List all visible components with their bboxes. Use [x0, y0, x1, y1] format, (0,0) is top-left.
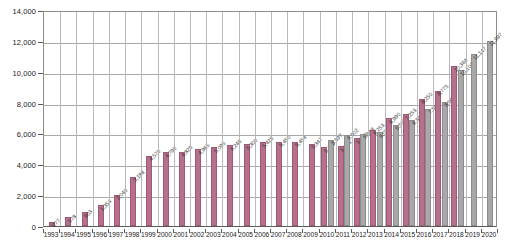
category-separator [190, 12, 191, 226]
bar-value-label: 5,300 [245, 137, 259, 151]
category-separator [60, 12, 61, 226]
bar-pink [195, 149, 201, 226]
category-separator [466, 12, 467, 226]
category-separator [222, 12, 223, 226]
bar-value-label: 5,425 [261, 135, 275, 149]
bar-value-label: 8,775 [436, 83, 450, 97]
bar-pink [338, 146, 344, 226]
bar-value-label: 2,040 [115, 187, 129, 201]
y-axis-tick-label: 14,000 [12, 7, 36, 16]
bar-pink [211, 147, 217, 226]
x-axis-tick-label: 2007 [270, 231, 286, 238]
bar-gray [409, 120, 415, 226]
bar-pink [435, 91, 441, 226]
bar-value-label: 4,790 [164, 145, 178, 159]
x-axis-tick-label: 2018 [448, 231, 464, 238]
x-axis-tick-label: 1995 [75, 231, 91, 238]
bar-pink [321, 147, 327, 226]
y-axis-tick-label: 12,000 [12, 37, 36, 46]
bar-pink [146, 156, 152, 227]
bar-pink [354, 138, 360, 226]
category-separator [109, 12, 110, 226]
bar-value-label: 5,246 [229, 138, 243, 152]
bar-gray [487, 41, 493, 226]
x-axis-tick-label: 2020 [481, 231, 497, 238]
category-separator [271, 12, 272, 226]
x-axis: 1993199419951996199719981999200020012002… [43, 229, 497, 246]
x-axis-tick-label: 2000 [157, 231, 173, 238]
x-axis-tick-label: 2005 [238, 231, 254, 238]
x-axis-tick-label: 2011 [335, 231, 351, 238]
bar-pink [370, 130, 376, 226]
x-axis-tick-label: 2009 [302, 231, 318, 238]
bar-gray [458, 70, 464, 226]
x-axis-tick-label: 2015 [400, 231, 416, 238]
bar-gray [328, 140, 334, 226]
category-separator [158, 12, 159, 226]
x-axis-tick-label: 2003 [205, 231, 221, 238]
category-separator [255, 12, 256, 226]
x-axis-tick-label: 1994 [59, 231, 75, 238]
bar-gray [442, 102, 448, 226]
bar-value-label: 5,095 [213, 140, 227, 154]
plot-area: 2775789031,3542,0403,1884,5704,7904,8254… [43, 11, 497, 227]
bar-value-label: 3,188 [131, 170, 145, 184]
category-separator [482, 12, 483, 226]
category-separator [141, 12, 142, 226]
bar-pink [130, 177, 136, 226]
bar-value-label: 5,454 [294, 135, 308, 149]
bar-pink [451, 66, 457, 226]
category-separator [174, 12, 175, 226]
x-axis-tick-label: 2004 [221, 231, 237, 238]
x-axis-tick-label: 2013 [367, 231, 383, 238]
category-separator [93, 12, 94, 226]
bar-pink [309, 144, 315, 226]
x-axis-tick-label: 2019 [465, 231, 481, 238]
x-axis-tick-label: 2002 [189, 231, 205, 238]
bar-pink [276, 142, 282, 226]
bar-value-label: 4,825 [180, 144, 194, 158]
bar-pink [227, 145, 233, 226]
bar-group: 2775789031,3542,0403,1884,5704,7904,8254… [44, 12, 496, 226]
bar-value-label: 11,147 [472, 45, 488, 61]
y-axis-tick-label: 8,000 [17, 99, 36, 108]
y-axis: 02,0004,0006,0008,00010,00012,00014,000 [0, 11, 40, 227]
x-axis-tick-label: 2014 [384, 231, 400, 238]
bar-gray [360, 134, 366, 226]
y-axis-tick-label: 4,000 [17, 161, 36, 170]
category-separator [287, 12, 288, 226]
bar-gray [377, 132, 383, 226]
bar-pink [179, 152, 185, 226]
bar-value-label: 4,570 [148, 148, 162, 162]
bar-value-label: 11,997 [488, 32, 504, 48]
bar-gray [471, 54, 477, 226]
bar-gray [393, 125, 399, 226]
x-axis-tick-label: 2017 [432, 231, 448, 238]
bar-value-label: 4,965 [196, 142, 210, 156]
bar-gray [344, 135, 350, 226]
bar-pink [419, 99, 425, 226]
bar-pink [260, 142, 266, 226]
category-separator [206, 12, 207, 226]
x-axis-tick-label: 2001 [173, 231, 189, 238]
x-axis-tick-label: 1998 [124, 231, 140, 238]
bar-chart: 02,0004,0006,0008,00010,00012,00014,000 … [0, 0, 505, 248]
category-separator [125, 12, 126, 226]
category-separator [239, 12, 240, 226]
bar-gray [425, 109, 431, 226]
bar-pink [244, 144, 250, 226]
y-axis-tick-mark [38, 227, 43, 228]
x-axis-tick-label: 2010 [319, 231, 335, 238]
x-axis-tick-label: 1993 [43, 231, 59, 238]
bar-pink [292, 142, 298, 226]
x-axis-tick-mark [497, 229, 498, 233]
x-axis-tick-label: 2016 [416, 231, 432, 238]
y-axis-tick-label: 10,000 [12, 68, 36, 77]
x-axis-tick-label: 2008 [286, 231, 302, 238]
y-axis-tick-label: 6,000 [17, 130, 36, 139]
bar-pink [403, 114, 409, 226]
bar-value-label: 8,250 [420, 91, 434, 105]
x-axis-tick-label: 2006 [254, 231, 270, 238]
bar-value-label: 5,450 [277, 135, 291, 149]
category-separator [303, 12, 304, 226]
